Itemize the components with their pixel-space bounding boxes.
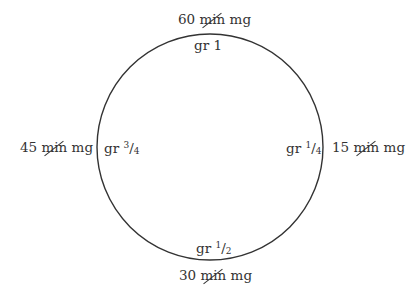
struck-min: min [41, 141, 67, 155]
outer-label-bottom: 30 min mg [179, 269, 252, 283]
inner-label-top: gr 1 [194, 39, 222, 53]
inner-label-right: gr 1/4 [286, 141, 321, 156]
inner-label-left: gr 3/4 [104, 141, 139, 156]
struck-min: min [353, 141, 379, 155]
outer-label-right: 15 min mg [332, 141, 405, 155]
inner-label-bottom: gr 1/2 [196, 241, 231, 256]
struck-min: min [200, 269, 226, 283]
outer-label-left: 45 min mg [20, 141, 93, 155]
outer-label-top: 60 min mg [178, 13, 251, 27]
struck-min: min [199, 13, 225, 27]
